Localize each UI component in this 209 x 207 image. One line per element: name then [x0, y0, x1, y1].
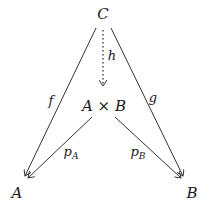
- label-pB: pB: [131, 145, 146, 161]
- label-f: f: [49, 94, 54, 107]
- node-c: C: [97, 7, 108, 22]
- label-h: h: [108, 49, 116, 62]
- product-diagram: C A × B A B f g h pA pB: [0, 0, 209, 207]
- node-product: A × B: [82, 99, 126, 114]
- label-g: g: [149, 91, 157, 104]
- arrow-pB: [115, 117, 181, 178]
- node-b: B: [186, 186, 197, 201]
- arrow-pA: [28, 117, 92, 178]
- node-a: A: [12, 186, 23, 201]
- label-pA-sub: A: [72, 151, 79, 161]
- label-pA: pA: [64, 145, 79, 161]
- label-pB-sub: B: [139, 151, 146, 161]
